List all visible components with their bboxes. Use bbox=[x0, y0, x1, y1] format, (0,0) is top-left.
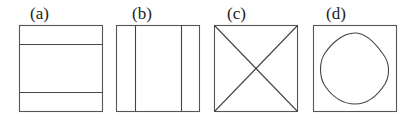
panel-label-c: (c) bbox=[227, 4, 246, 23]
panel-d-square bbox=[314, 26, 397, 112]
panel-label-d: (d) bbox=[326, 4, 346, 23]
panel-d: (d) bbox=[314, 4, 397, 112]
panel-b: (b) bbox=[117, 4, 200, 112]
panel-a: (a) bbox=[20, 4, 103, 112]
panel-a-square bbox=[20, 26, 103, 112]
panel-c: (c) bbox=[215, 4, 298, 112]
figure-canvas: (a) (b) (c) (d) bbox=[0, 0, 410, 115]
panel-label-a: (a) bbox=[30, 4, 49, 23]
panel-label-b: (b) bbox=[132, 4, 152, 23]
panel-d-rounded-curve bbox=[321, 33, 389, 104]
panel-b-square bbox=[117, 26, 200, 112]
